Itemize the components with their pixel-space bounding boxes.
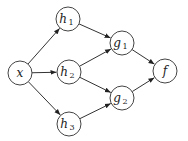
- computation-graph: xh1h2h3g1g2f: [0, 0, 188, 141]
- node-label: x: [17, 66, 24, 80]
- edge-h3-to-g2: [80, 104, 111, 119]
- node-subscript: 3: [69, 123, 74, 132]
- node-label: g: [113, 36, 121, 50]
- edges-layer: [28, 24, 155, 119]
- edge-h1-to-g1: [79, 24, 111, 38]
- edge-x-to-h2: [32, 72, 57, 73]
- edge-g2-to-f: [132, 78, 154, 92]
- node-label: g: [113, 91, 121, 105]
- edge-g1-to-f: [132, 50, 154, 65]
- nodes-layer: xh1h2h3g1g2f: [8, 7, 177, 136]
- node-f: f: [153, 59, 177, 83]
- node-g2: g2: [110, 86, 134, 110]
- node-x: x: [8, 61, 32, 85]
- node-subscript: 2: [69, 71, 74, 80]
- node-h2: h2: [57, 60, 81, 84]
- node-subscript: 1: [122, 42, 127, 51]
- node-label: h: [60, 117, 68, 131]
- node-subscript: 1: [68, 18, 73, 27]
- edge-h2-to-g2: [80, 77, 111, 92]
- edge-h2-to-g1: [80, 49, 112, 66]
- node-label: h: [60, 65, 68, 79]
- node-h3: h3: [57, 112, 81, 136]
- node-label: h: [59, 12, 67, 26]
- node-h1: h1: [56, 7, 80, 31]
- edge-x-to-h1: [28, 28, 60, 64]
- node-subscript: 2: [122, 97, 127, 106]
- edge-x-to-h3: [28, 82, 60, 115]
- node-g1: g1: [110, 31, 134, 55]
